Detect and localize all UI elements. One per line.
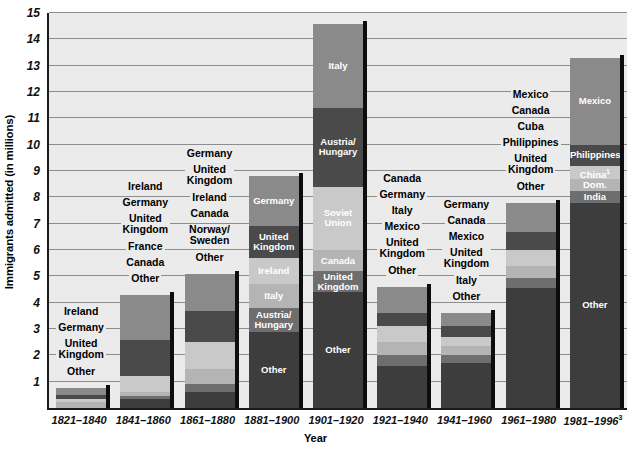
segment-label: Germany bbox=[249, 196, 299, 206]
bar-segment-germany[interactable] bbox=[441, 313, 491, 326]
bar-segment-united-kingdom[interactable]: UnitedKingdom bbox=[249, 226, 299, 258]
bar-segment-austria-hungary[interactable]: Austria/Hungary bbox=[249, 308, 299, 332]
bar-segment-italy[interactable] bbox=[377, 326, 427, 342]
bar-segment-canada[interactable]: Canada bbox=[313, 250, 363, 271]
segment-label: Italy bbox=[249, 291, 299, 301]
bar-segment-other[interactable]: Other bbox=[313, 292, 363, 408]
bar-segment-other[interactable] bbox=[377, 366, 427, 408]
bar-segment-italy[interactable]: Italy bbox=[249, 284, 299, 308]
y-tick-6: 6 bbox=[14, 244, 40, 256]
bar-segment-canada[interactable] bbox=[377, 287, 427, 313]
bar-segment-other[interactable] bbox=[506, 288, 556, 408]
bar-segment-germany[interactable]: Germany bbox=[249, 176, 299, 226]
segment-label: Ireland bbox=[249, 266, 299, 276]
x-tick-1941-1960: 1941–1960 bbox=[432, 414, 496, 426]
callout-label-ireland: Ireland bbox=[41, 306, 121, 317]
bar-segment-canada[interactable] bbox=[185, 369, 235, 385]
y-tick-12: 12 bbox=[14, 86, 40, 98]
segment-label: Other bbox=[313, 345, 363, 355]
bar-segment-united-kingdom[interactable]: UnitedKingdom bbox=[313, 271, 363, 292]
bar-shadow bbox=[299, 173, 303, 408]
callout-label-united-kingdom: UnitedKingdom bbox=[426, 247, 506, 269]
bar-shadow bbox=[620, 55, 624, 408]
bar-segment-canada[interactable] bbox=[441, 326, 491, 337]
y-tick-7: 7 bbox=[14, 218, 40, 230]
bar-segment-united-kingdom[interactable] bbox=[185, 311, 235, 343]
y-tick-8: 8 bbox=[14, 191, 40, 203]
x-axis-title: Year bbox=[0, 432, 631, 444]
bar-segment-canada[interactable] bbox=[506, 232, 556, 250]
bar-segment-philippines[interactable] bbox=[506, 266, 556, 278]
bar-segment-mexico[interactable] bbox=[377, 342, 427, 355]
bar-1861-1880[interactable] bbox=[185, 274, 235, 408]
bar-segment-other[interactable]: Other bbox=[249, 332, 299, 408]
segment-label: China1 bbox=[570, 167, 620, 179]
callout-label-germany: Germany bbox=[41, 322, 121, 333]
bar-segment-germany[interactable] bbox=[120, 340, 170, 377]
bar-1981-1996[interactable]: MexicoPhilippinesChina1Dom. Rep.2IndiaOt… bbox=[570, 58, 620, 408]
callout-label-united-kingdom: UnitedKingdom bbox=[170, 164, 250, 186]
bar-segment-mexico[interactable] bbox=[441, 337, 491, 346]
bar-1841-1860[interactable] bbox=[120, 295, 170, 408]
bar-segment-china[interactable]: China1 bbox=[570, 166, 620, 179]
y-tick-15: 15 bbox=[14, 7, 40, 19]
bar-segment-austria-hungary[interactable]: Austria/Hungary bbox=[313, 108, 363, 187]
bar-segment-other[interactable] bbox=[56, 402, 106, 408]
segment-label: Other bbox=[249, 365, 299, 375]
segment-label: Italy bbox=[313, 61, 363, 71]
x-tick-1861-1880: 1861–1880 bbox=[176, 414, 240, 426]
callout-label-united-kingdom: UnitedKingdom bbox=[41, 338, 121, 360]
bar-segment-ireland[interactable]: Ireland bbox=[249, 258, 299, 284]
bar-segment-philippines[interactable]: Philippines bbox=[570, 145, 620, 166]
bar-segment-other[interactable] bbox=[120, 399, 170, 408]
y-tick-5: 5 bbox=[14, 270, 40, 282]
bar-shadow bbox=[106, 385, 110, 408]
bar-segment-united-kingdom[interactable] bbox=[441, 346, 491, 355]
y-tick-9: 9 bbox=[14, 165, 40, 177]
bar-segment-cuba[interactable] bbox=[506, 250, 556, 266]
bar-segment-united-kingdom[interactable] bbox=[377, 355, 427, 366]
bar-segment-germany[interactable] bbox=[185, 274, 235, 311]
bar-shadow bbox=[170, 292, 174, 408]
bar-segment-norway-sweden[interactable] bbox=[185, 384, 235, 392]
bar-shadow bbox=[491, 310, 495, 408]
bar-segment-other[interactable] bbox=[185, 392, 235, 408]
callout-label-canada: Canada bbox=[362, 173, 442, 184]
bar-segment-ireland[interactable] bbox=[56, 388, 106, 395]
bar-segment-soviet-union[interactable]: SovietUnion bbox=[313, 187, 363, 250]
bar-segment-mexico[interactable]: Mexico bbox=[570, 58, 620, 145]
y-tick-4: 4 bbox=[14, 297, 40, 309]
bar-segment-other[interactable]: Other bbox=[570, 203, 620, 408]
bar-1901-1920[interactable]: ItalyAustria/HungarySovietUnionCanadaUni… bbox=[313, 24, 363, 408]
bar-segment-italy[interactable]: Italy bbox=[313, 24, 363, 108]
x-tick-1921-1940: 1921–1940 bbox=[368, 414, 432, 426]
callout-label-other: Other bbox=[105, 273, 185, 284]
callout-label-other: Other bbox=[170, 252, 250, 263]
callout-label-mexico: Mexico bbox=[426, 231, 506, 242]
bar-segment-italy[interactable] bbox=[441, 355, 491, 363]
bar-segment-ireland[interactable] bbox=[120, 295, 170, 340]
bar-1941-1960[interactable] bbox=[441, 313, 491, 408]
bar-segment-united-kingdom[interactable] bbox=[120, 376, 170, 392]
bar-1961-1980[interactable] bbox=[506, 203, 556, 408]
bar-segment-united-kingdom[interactable] bbox=[506, 278, 556, 289]
bar-segment-ireland[interactable] bbox=[185, 342, 235, 368]
bar-segment-germany[interactable] bbox=[377, 313, 427, 326]
bar-segment-india[interactable]: India bbox=[570, 191, 620, 203]
x-tick-1881-1900: 1881–1900 bbox=[240, 414, 304, 426]
callout-label-canada: Canada bbox=[426, 215, 506, 226]
callout-label-ireland: Ireland bbox=[170, 192, 250, 203]
bar-1881-1900[interactable]: GermanyUnitedKingdomIrelandItalyAustria/… bbox=[249, 176, 299, 408]
bar-segment-mexico[interactable] bbox=[506, 203, 556, 232]
x-tick-1981-1996: 1981–19963 bbox=[561, 414, 625, 427]
bar-segment-other[interactable] bbox=[441, 363, 491, 408]
segment-label: Mexico bbox=[570, 96, 620, 106]
bar-segment-dom-rep[interactable]: Dom. Rep.2 bbox=[570, 179, 620, 191]
y-tick-11: 11 bbox=[14, 112, 40, 124]
bar-1821-1840[interactable] bbox=[56, 388, 106, 408]
callout-label-mexico: Mexico bbox=[491, 89, 571, 100]
x-tick-1821-1840: 1821–1840 bbox=[47, 414, 111, 426]
callout-label-germany: Germany bbox=[170, 148, 250, 159]
immigration-stacked-bar-chart: Immigrants admitted (in millions) 151413… bbox=[0, 0, 631, 452]
bar-1921-1940[interactable] bbox=[377, 287, 427, 408]
